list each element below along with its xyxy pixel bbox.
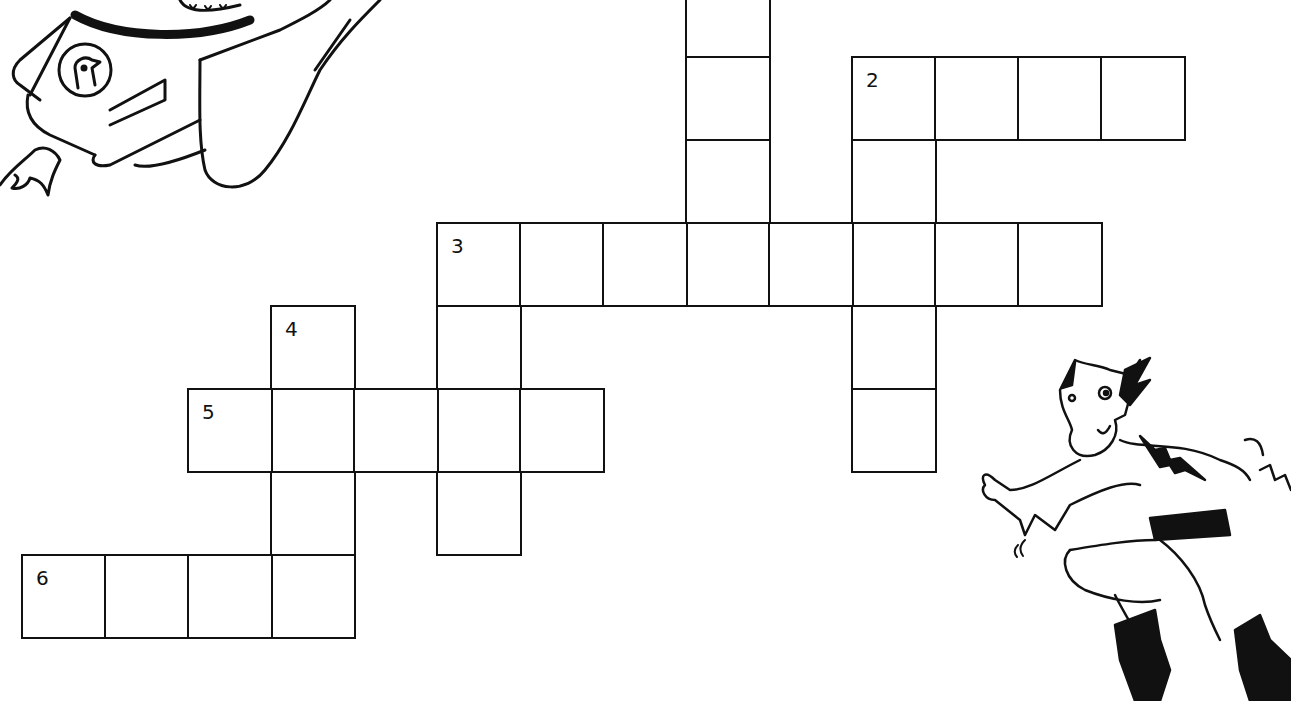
cell-input[interactable] [1019,58,1101,139]
cell-input[interactable] [272,556,354,637]
cell-input[interactable] [687,141,769,222]
cell-input[interactable] [272,473,354,554]
cell-input[interactable] [106,556,188,637]
cell-input[interactable] [853,141,935,222]
crossword-cell[interactable]: 6 [21,554,107,639]
cell-input[interactable] [936,224,1018,305]
cell-input[interactable] [853,307,935,388]
crossword-page: 23456 [0,0,1291,701]
crossword-cell[interactable]: 2 [851,56,937,141]
crossword-cell[interactable]: 3 [436,222,522,307]
cell-input[interactable] [604,224,686,305]
crossword-cell[interactable] [602,222,688,307]
crossword-cell[interactable]: 4 [270,305,356,390]
crossword-cell[interactable] [851,305,937,390]
rocket-rider-illustration [0,0,400,210]
cell-input[interactable] [272,390,354,471]
crossword-cell[interactable] [519,222,605,307]
crossword-cell[interactable] [685,0,771,58]
crossword-cell[interactable] [353,388,439,473]
crossword-cell[interactable]: 5 [187,388,273,473]
cell-input[interactable] [521,390,603,471]
crossword-cell[interactable] [851,222,937,307]
superhero-illustration [960,340,1291,701]
cell-input[interactable] [438,224,520,305]
cell-input[interactable] [521,224,603,305]
crossword-cell[interactable] [104,554,190,639]
cell-input[interactable] [189,390,271,471]
crossword-cell[interactable] [851,388,937,473]
cell-input[interactable] [853,224,935,305]
cell-input[interactable] [438,307,520,388]
cell-input[interactable] [1102,58,1184,139]
crossword-cell[interactable] [270,471,356,556]
crossword-cell[interactable] [187,554,273,639]
crossword-cell[interactable] [270,388,356,473]
crossword-cell[interactable] [519,388,605,473]
cell-input[interactable] [687,224,769,305]
crossword-cell[interactable] [685,56,771,141]
crossword-cell[interactable] [934,56,1020,141]
cell-input[interactable] [23,556,105,637]
cell-input[interactable] [936,58,1018,139]
cell-input[interactable] [687,58,769,139]
crossword-cell[interactable] [768,222,854,307]
cell-input[interactable] [770,224,852,305]
cell-input[interactable] [438,473,520,554]
crossword-cell[interactable] [934,222,1020,307]
cell-input[interactable] [355,390,437,471]
crossword-cell[interactable] [1017,222,1103,307]
cell-input[interactable] [853,58,935,139]
crossword-cell[interactable] [436,388,522,473]
crossword-cell[interactable] [685,222,771,307]
cell-input[interactable] [438,390,520,471]
crossword-cell[interactable] [685,139,771,224]
cell-input[interactable] [272,307,354,388]
cell-input[interactable] [853,390,935,471]
crossword-cell[interactable] [1100,56,1186,141]
crossword-cell[interactable] [436,471,522,556]
cell-input[interactable] [687,0,769,56]
crossword-cell[interactable] [270,554,356,639]
crossword-cell[interactable] [851,139,937,224]
cell-input[interactable] [189,556,271,637]
crossword-cell[interactable] [436,305,522,390]
cell-input[interactable] [1019,224,1101,305]
crossword-cell[interactable] [1017,56,1103,141]
